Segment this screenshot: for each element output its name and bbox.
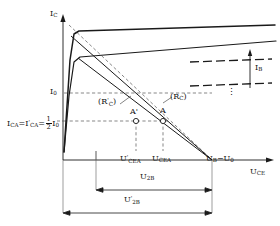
ucea-sub: CEA bbox=[159, 157, 171, 163]
u2b-prime-sub: 2B bbox=[132, 199, 140, 205]
x-axis-label-sub: CE bbox=[257, 170, 265, 176]
u2b-prime-base: U bbox=[124, 195, 131, 204]
u2b-prime-arrow-left bbox=[63, 211, 70, 216]
characteristic-curves bbox=[64, 25, 276, 152]
ellipsis-glyph: ⋮ bbox=[227, 87, 236, 97]
ellipsis-dots: ⋮ bbox=[227, 88, 236, 97]
ub-base: U bbox=[206, 154, 213, 163]
eq-i-sub: CA bbox=[10, 122, 18, 128]
y-axis-arrowhead bbox=[60, 14, 65, 22]
ib-label: IB bbox=[255, 64, 262, 73]
characteristic-curve-plot bbox=[0, 0, 280, 226]
one-half-fraction: 12 bbox=[46, 116, 52, 130]
x-axis-label: UCE bbox=[250, 168, 265, 177]
ucea-prime-base: U bbox=[120, 154, 127, 163]
ucea-base: U bbox=[152, 154, 159, 163]
load-resistor-label: (RC) bbox=[170, 93, 187, 102]
y-axis-label: IC bbox=[50, 10, 57, 19]
ica-equation-label: ICA=I'CA=12I0 bbox=[7, 116, 59, 130]
eq-equals-2: = bbox=[38, 119, 45, 128]
working-point-a-prime-label: A' bbox=[130, 108, 138, 116]
u2b-label: U2B bbox=[140, 173, 154, 182]
fraction-denominator: 2 bbox=[46, 124, 52, 131]
ub-minus-u0-label: UB−U0 bbox=[206, 155, 234, 164]
x-axis-label-base: U bbox=[250, 167, 257, 176]
leader-rc-prime bbox=[120, 96, 131, 104]
ib-arrow-head bbox=[248, 49, 252, 56]
u2b-arrow-left bbox=[96, 188, 103, 193]
load-line-rc bbox=[78, 58, 212, 160]
figure-canvas: IC UCE I0 IB ⋮ (R'C) (RC) A' A U'CEA UCE… bbox=[0, 0, 280, 226]
eq-i0-sub: 0 bbox=[56, 122, 60, 128]
minus-sign: − bbox=[217, 154, 224, 163]
ib-arrow-group bbox=[248, 49, 252, 88]
leader-lines bbox=[120, 96, 172, 104]
dimension-u2b bbox=[96, 188, 212, 193]
i0-label-sub: 0 bbox=[53, 90, 57, 96]
rc-close: ) bbox=[183, 92, 186, 101]
u2b-sub: 2B bbox=[147, 175, 155, 181]
u2b-prime-label: U'2B bbox=[124, 196, 140, 205]
ucea-prime-label: U'CEA bbox=[120, 155, 141, 164]
eq-i2-sub: CA bbox=[30, 122, 38, 128]
load-line-rc-prime bbox=[71, 36, 212, 160]
axes-group bbox=[60, 14, 274, 163]
marker-a-prime bbox=[133, 118, 138, 123]
dimension-u2b-prime bbox=[63, 211, 212, 216]
y-axis-label-sub: C bbox=[53, 12, 57, 18]
load-resistor-prime-label: (R'C) bbox=[98, 98, 116, 107]
dashed-load-line-upper bbox=[69, 25, 211, 159]
load-lines bbox=[71, 36, 212, 160]
ib-label-sub: B bbox=[258, 66, 262, 72]
i0-label: I0 bbox=[50, 88, 57, 97]
u2b-prime-arrow-right bbox=[205, 211, 212, 216]
dashed-helper-lines bbox=[64, 25, 212, 159]
x-axis-arrowhead bbox=[266, 157, 274, 162]
a-text: A bbox=[160, 106, 166, 115]
u2b-arrow-right bbox=[205, 188, 212, 193]
a-prime-text: A' bbox=[130, 107, 138, 116]
dashed-characteristic-lower bbox=[190, 83, 272, 86]
working-point-a-label: A bbox=[160, 107, 166, 115]
u2b-base: U bbox=[140, 172, 147, 181]
ucea-prime-sub: CEA bbox=[128, 158, 140, 164]
marker-a bbox=[160, 118, 165, 123]
ucea-label: UCEA bbox=[152, 155, 171, 164]
u0-sub: 0 bbox=[230, 157, 234, 163]
rc-prime-close: ) bbox=[113, 97, 116, 106]
dashed-characteristic-upper bbox=[190, 59, 272, 62]
